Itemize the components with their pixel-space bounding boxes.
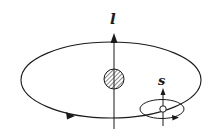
- orbit-direction-arrow-icon: [66, 112, 75, 120]
- spin-orbit-diagram: l s: [0, 0, 221, 137]
- electron-icon: [160, 106, 166, 112]
- spin-momentum-label: s: [158, 73, 166, 88]
- nucleus-icon: [104, 69, 124, 89]
- orbital-axis-arrowhead-icon: [111, 33, 118, 43]
- orbital-momentum-label: l: [110, 10, 116, 28]
- spin-axis-arrowhead-icon: [161, 88, 166, 95]
